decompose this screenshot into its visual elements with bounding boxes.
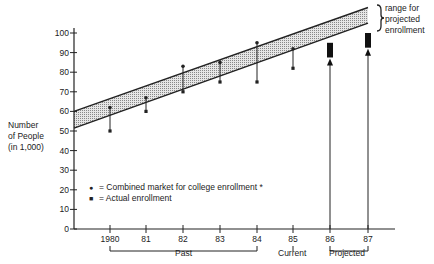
x-tick-label: 86	[325, 234, 335, 244]
y-tick-label: 0	[64, 224, 69, 234]
y-tick-label: 70	[60, 87, 70, 97]
combined-marker	[255, 41, 259, 45]
y-tick-label: 30	[60, 165, 70, 175]
x-tick-label: 1980	[101, 234, 120, 244]
chart-plot: 0102030405060708090100198081828384858687	[0, 0, 434, 264]
y-axis-label: Number of People (in 1,000)	[8, 120, 44, 153]
combined-marker	[108, 106, 112, 110]
x-tick-label: 83	[215, 234, 225, 244]
dot-marker-icon: ●	[86, 182, 96, 193]
combined-marker	[218, 61, 222, 65]
x-tick-label: 85	[288, 234, 298, 244]
range-annotation-line-3: enrollment	[385, 25, 425, 36]
y-axis-label-line-3: (in 1,000)	[8, 142, 44, 153]
actual-marker	[255, 80, 258, 83]
x-tick-label: 82	[178, 234, 188, 244]
combined-marker	[181, 65, 185, 69]
y-tick-label: 20	[60, 185, 70, 195]
actual-marker	[218, 80, 221, 83]
x-tick-label: 84	[252, 234, 262, 244]
range-annotation: range for projected enrollment	[385, 3, 425, 36]
y-tick-label: 80	[60, 67, 70, 77]
square-marker-icon: ■	[86, 193, 96, 204]
combined-marker	[144, 96, 148, 100]
projected-range-bar	[327, 43, 333, 58]
y-tick-label: 90	[60, 48, 70, 58]
actual-marker	[291, 67, 294, 70]
projected-range-bar	[365, 33, 371, 48]
actual-marker	[144, 110, 147, 113]
y-axis-label-line-1: Number	[8, 120, 44, 131]
group-label-projected: Projected	[329, 248, 365, 258]
group-label-past: Past	[175, 248, 192, 258]
actual-marker	[181, 90, 184, 93]
y-tick-label: 40	[60, 146, 70, 156]
trend-band-lower-line	[74, 23, 368, 128]
arrow-up-icon	[327, 58, 333, 65]
range-annotation-line-2: projected	[385, 14, 425, 25]
x-tick-label: 87	[363, 234, 373, 244]
actual-marker	[108, 129, 111, 132]
trend-band	[74, 8, 368, 129]
legend-item-actual: ■ = Actual enrollment	[86, 193, 263, 204]
y-tick-label: 50	[60, 126, 70, 136]
arrow-up-icon	[365, 49, 371, 56]
y-axis-label-line-2: of People	[8, 131, 44, 142]
combined-marker	[291, 47, 295, 51]
group-label-current: Current	[278, 248, 306, 258]
legend-item-combined: ● = Combined market for college enrollme…	[86, 182, 263, 193]
legend-label-actual: = Actual enrollment	[99, 193, 172, 204]
range-annotation-line-1: range for	[385, 3, 425, 14]
trend-band-upper-line	[74, 8, 368, 112]
legend-label-combined: = Combined market for college enrollment…	[99, 182, 263, 193]
y-tick-label: 60	[60, 106, 70, 116]
y-tick-label: 10	[60, 204, 70, 214]
x-tick-label: 81	[141, 234, 151, 244]
y-tick-label: 100	[55, 28, 69, 38]
legend: ● = Combined market for college enrollme…	[86, 182, 263, 204]
curly-brace-icon	[377, 5, 384, 31]
